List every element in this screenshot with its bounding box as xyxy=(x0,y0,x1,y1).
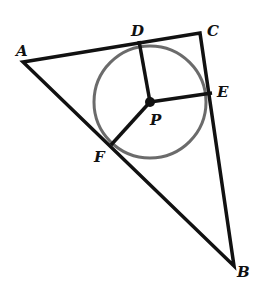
geometry-diagram: A D C E P F B xyxy=(0,0,268,301)
label-b: B xyxy=(236,263,250,281)
center-point-p xyxy=(145,97,155,107)
label-a: A xyxy=(14,42,28,60)
label-d: D xyxy=(130,22,144,40)
radius-pe xyxy=(150,93,212,102)
label-p: P xyxy=(149,111,162,129)
label-c: C xyxy=(207,22,219,40)
radius-pf xyxy=(111,102,150,145)
label-e: E xyxy=(216,83,229,101)
label-f: F xyxy=(93,148,106,166)
triangle-abc xyxy=(23,33,234,266)
radius-pd xyxy=(139,41,150,102)
